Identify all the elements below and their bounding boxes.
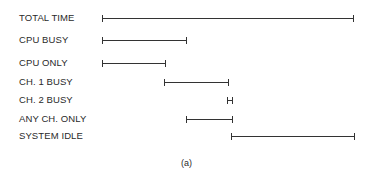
label-cpu-only: CPU ONLY: [19, 58, 68, 68]
label-ch1-busy: CH. 1 BUSY: [19, 77, 73, 87]
label-cpu-busy: CPU BUSY: [19, 35, 68, 45]
bar-system-idle: [232, 136, 354, 137]
bar-total-time: [103, 18, 353, 19]
bar-ch1-busy: [165, 82, 228, 83]
label-ch2-busy: CH. 2 BUSY: [19, 95, 73, 105]
label-system-idle: SYSTEM IDLE: [19, 131, 83, 141]
figure-caption: (a): [181, 158, 192, 168]
label-any-ch-only: ANY CH. ONLY: [19, 114, 86, 124]
label-total-time: TOTAL TIME: [19, 13, 75, 23]
bar-any-ch-only: [187, 119, 232, 120]
bar-ch2-busy: [228, 100, 232, 101]
bar-cpu-busy: [103, 40, 186, 41]
bar-cpu-only: [103, 63, 165, 64]
